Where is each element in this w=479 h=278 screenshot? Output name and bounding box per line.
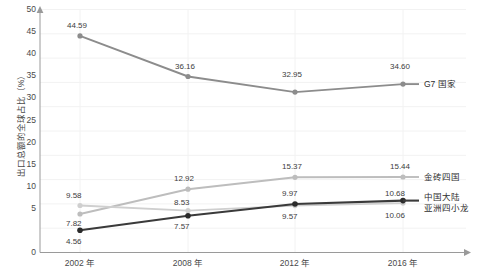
data-label-g7-2012: 32.95	[282, 70, 302, 79]
data-point-dragons-2008	[185, 208, 190, 213]
data-point-bric-2008	[185, 187, 190, 192]
data-label-dragons-2012: 9.57	[282, 212, 298, 221]
data-point-bric-2012	[292, 175, 297, 180]
legend-label-bric: 金砖四国	[424, 172, 460, 182]
series-line-g7	[77, 33, 405, 94]
legend-label-g7: G7 国家	[424, 79, 456, 89]
data-label-dragons-2002: 9.58	[66, 191, 82, 200]
chart-container: 出口总额的全球占比（%） 50 45 40 35 30 25 20 15 10 …	[0, 0, 479, 278]
data-point-china-2012	[292, 201, 298, 207]
data-label-dragons-2016: 10.06	[385, 211, 405, 220]
legend-label-dragons: 亚洲四小龙	[424, 203, 469, 213]
data-label-g7-2002: 44.59	[67, 21, 87, 30]
data-label-china-2008: 7.57	[174, 222, 190, 231]
data-label-g7-2016: 34.60	[390, 62, 410, 71]
x-axis	[40, 249, 471, 256]
data-label-china-2016: 10.68	[385, 189, 405, 198]
data-point-g7-2012	[292, 90, 297, 95]
y-axis	[37, 6, 44, 253]
legend-label-china: 中国大陆	[424, 192, 460, 202]
legend-connectors	[403, 84, 419, 201]
data-label-bric-2016: 15.44	[390, 162, 410, 171]
data-label-bric-2008: 12.92	[174, 174, 194, 183]
data-point-bric-2002	[77, 211, 82, 216]
data-point-g7-2008	[185, 74, 190, 79]
data-label-bric-2002: 7.82	[66, 219, 82, 228]
data-point-g7-2002	[77, 33, 82, 38]
data-label-china-2002: 4.56	[66, 237, 82, 246]
data-label-dragons-2008: 8.53	[174, 198, 190, 207]
data-label-china-2012: 9.97	[282, 189, 298, 198]
data-label-g7-2008: 36.16	[175, 62, 195, 71]
data-point-china-2002	[77, 228, 83, 234]
data-point-china-2008	[185, 213, 191, 219]
data-label-bric-2012: 15.37	[282, 162, 302, 171]
data-point-dragons-2002	[77, 203, 82, 208]
